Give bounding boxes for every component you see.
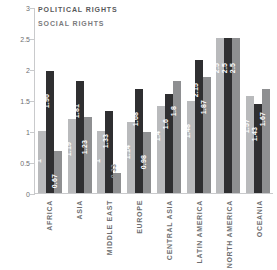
bar[interactable]: 1.81 bbox=[76, 81, 84, 193]
bar-value-label: 2.15 bbox=[192, 82, 199, 96]
plot-area: 11.960.671.191.811.2311.330.331.141.680.… bbox=[34, 8, 273, 194]
x-axis-category: LATIN AMERICA bbox=[184, 200, 214, 266]
y-axis-tick-label: 1 bbox=[4, 129, 30, 136]
x-axis-category-label: ASIA bbox=[76, 200, 83, 220]
x-axis-line bbox=[34, 193, 273, 194]
bar-group: 1.571.431.67 bbox=[243, 8, 273, 193]
bar[interactable]: 1.87 bbox=[203, 77, 211, 193]
bar-value-label: 2.5 bbox=[221, 63, 228, 73]
bar[interactable]: 0.98 bbox=[143, 132, 151, 193]
bar-value-label: 1.68 bbox=[132, 112, 139, 126]
x-axis-category: ASIA bbox=[65, 200, 95, 266]
y-axis-tick bbox=[30, 163, 35, 164]
x-axis-category-labels: AFRICAASIAMIDDLE EASTEUROPECENTRAL ASIAL… bbox=[35, 200, 274, 266]
bar-chart: POLITICAL RIGHTS SOCIAL RIGHTS 00.511.52… bbox=[0, 0, 277, 270]
y-axis-tick bbox=[30, 101, 35, 102]
bar-value-label: 1.4 bbox=[154, 131, 161, 141]
bar-value-label: 1 bbox=[94, 159, 101, 163]
bar[interactable]: 1.67 bbox=[262, 89, 270, 193]
x-axis-category: EUROPE bbox=[125, 200, 155, 266]
bar-value-label: 1.14 bbox=[124, 145, 131, 159]
y-axis-tick bbox=[30, 70, 35, 71]
bar[interactable]: 1.23 bbox=[84, 117, 92, 193]
x-axis-category-label: LATIN AMERICA bbox=[196, 200, 203, 264]
x-axis-category-label: OCEANIA bbox=[256, 200, 263, 237]
bar-value-label: 0.33 bbox=[110, 163, 117, 177]
bar[interactable]: 1.57 bbox=[246, 96, 254, 193]
bar-group: 1.141.680.98 bbox=[124, 8, 154, 193]
bar-value-label: 1.33 bbox=[102, 133, 109, 147]
bar-value-label: 2.5 bbox=[213, 63, 220, 73]
bar-value-label: 1.96 bbox=[43, 94, 50, 108]
bar-group: 1.191.811.23 bbox=[65, 8, 95, 193]
bar[interactable]: 1.33 bbox=[105, 111, 113, 193]
bar-value-label: 1 bbox=[35, 159, 42, 163]
bar[interactable]: 1.19 bbox=[68, 119, 76, 193]
bar-value-label: 0.67 bbox=[51, 174, 58, 188]
bar[interactable]: 1.68 bbox=[135, 89, 143, 193]
bar[interactable]: 1.14 bbox=[127, 122, 135, 193]
x-axis-category-label: MIDDLE EAST bbox=[106, 200, 113, 255]
bar-group: 11.960.67 bbox=[35, 8, 65, 193]
bar-value-label: 1.57 bbox=[243, 118, 250, 132]
bar-group: 11.330.33 bbox=[95, 8, 125, 193]
y-axis-tick bbox=[30, 8, 35, 9]
x-axis-category: AFRICA bbox=[35, 200, 65, 266]
x-axis-category-label: EUROPE bbox=[136, 200, 143, 234]
bar-value-label: 1.6 bbox=[162, 119, 169, 129]
bar-value-label: 1.48 bbox=[184, 124, 191, 138]
bar-groups: 11.960.671.191.811.2311.330.331.141.680.… bbox=[35, 8, 273, 193]
y-axis-tick-label: 1.5 bbox=[4, 98, 30, 105]
bar[interactable]: 0.33 bbox=[113, 173, 121, 193]
x-axis-category-label: CENTRAL ASIA bbox=[166, 200, 173, 260]
bar[interactable]: 2.5 bbox=[232, 38, 240, 193]
y-axis-labels: 00.511.522.53 bbox=[0, 8, 30, 194]
y-axis-tick bbox=[30, 194, 35, 195]
bar[interactable]: 1.8 bbox=[173, 81, 181, 193]
bar-value-label: 1.19 bbox=[65, 142, 72, 156]
y-axis-tick-label: 3 bbox=[4, 5, 30, 12]
bar-value-label: 2.5 bbox=[229, 63, 236, 73]
bar-value-label: 1.8 bbox=[170, 106, 177, 116]
bar-value-label: 1.67 bbox=[259, 112, 266, 126]
bar-value-label: 1.87 bbox=[200, 100, 207, 114]
bar[interactable]: 2.5 bbox=[216, 38, 224, 193]
bar-value-label: 1.23 bbox=[81, 140, 88, 154]
bar-value-label: 1.43 bbox=[251, 127, 258, 141]
x-axis-category: MIDDLE EAST bbox=[95, 200, 125, 266]
x-axis-category: CENTRAL ASIA bbox=[155, 200, 185, 266]
y-axis-tick bbox=[30, 39, 35, 40]
y-axis-tick-label: 2.5 bbox=[4, 36, 30, 43]
bar[interactable]: 2.15 bbox=[195, 60, 203, 193]
bar-value-label: 0.98 bbox=[140, 155, 147, 169]
x-axis-category: NORTH AMERICA bbox=[214, 200, 244, 266]
y-axis-tick-label: 0.5 bbox=[4, 160, 30, 167]
x-axis-category-label: NORTH AMERICA bbox=[226, 200, 233, 268]
bar-value-label: 1.81 bbox=[73, 104, 80, 118]
y-axis-tick-label: 2 bbox=[4, 67, 30, 74]
bar[interactable]: 0.67 bbox=[54, 151, 62, 193]
x-axis-category: OCEANIA bbox=[244, 200, 274, 266]
bar-group: 1.482.151.87 bbox=[184, 8, 214, 193]
bar-group: 2.52.52.5 bbox=[214, 8, 244, 193]
bar-group: 1.41.61.8 bbox=[154, 8, 184, 193]
bar[interactable]: 2.5 bbox=[224, 38, 232, 193]
y-axis-tick bbox=[30, 132, 35, 133]
bar[interactable]: 1.48 bbox=[187, 101, 195, 193]
x-axis-category-label: AFRICA bbox=[46, 200, 53, 231]
y-axis-tick-label: 0 bbox=[4, 191, 30, 198]
bar[interactable]: 1 bbox=[38, 131, 46, 193]
